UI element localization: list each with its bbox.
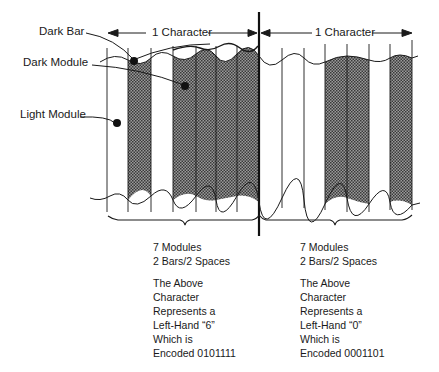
dark-bar-left-1	[128, 40, 151, 220]
caption-line: The Above	[153, 276, 236, 290]
encoding-line: Encoded 0001101	[300, 346, 384, 360]
caption-line: The Above	[300, 276, 384, 290]
character-width-label-right: 1 Character	[315, 26, 375, 38]
caption-line: Which is	[300, 332, 384, 346]
left-character-caption: 7 Modules 2 Bars/2 Spaces The Above Char…	[153, 240, 236, 360]
caption-line: Character	[153, 290, 236, 304]
caption-line: Which is	[153, 332, 236, 346]
modules-count: 7 Modules	[153, 240, 236, 254]
dark-bar-right-2	[390, 40, 412, 220]
dark-module-dot	[181, 82, 189, 90]
bars-spaces: 2 Bars/2 Spaces	[153, 254, 236, 268]
light-module-label: Light Module	[20, 108, 86, 120]
caption-line: Represents a	[153, 304, 236, 318]
encoding-line: Encoded 0101111	[153, 346, 236, 360]
bars-spaces: 2 Bars/2 Spaces	[300, 254, 384, 268]
caption-line: Left-Hand “0”	[300, 318, 384, 332]
light-module-dot	[113, 119, 121, 127]
dark-module-label: Dark Module	[23, 56, 88, 68]
caption-line: Character	[300, 290, 384, 304]
caption-line: Represents a	[300, 304, 384, 318]
right-character-caption: 7 Modules 2 Bars/2 Spaces The Above Char…	[300, 240, 384, 360]
modules-count: 7 Modules	[300, 240, 384, 254]
dark-bar-label: Dark Bar	[39, 25, 84, 37]
dark-bar-dot	[130, 57, 138, 65]
character-width-label-left: 1 Character	[152, 26, 212, 38]
caption-line: Left-Hand “6”	[153, 318, 236, 332]
